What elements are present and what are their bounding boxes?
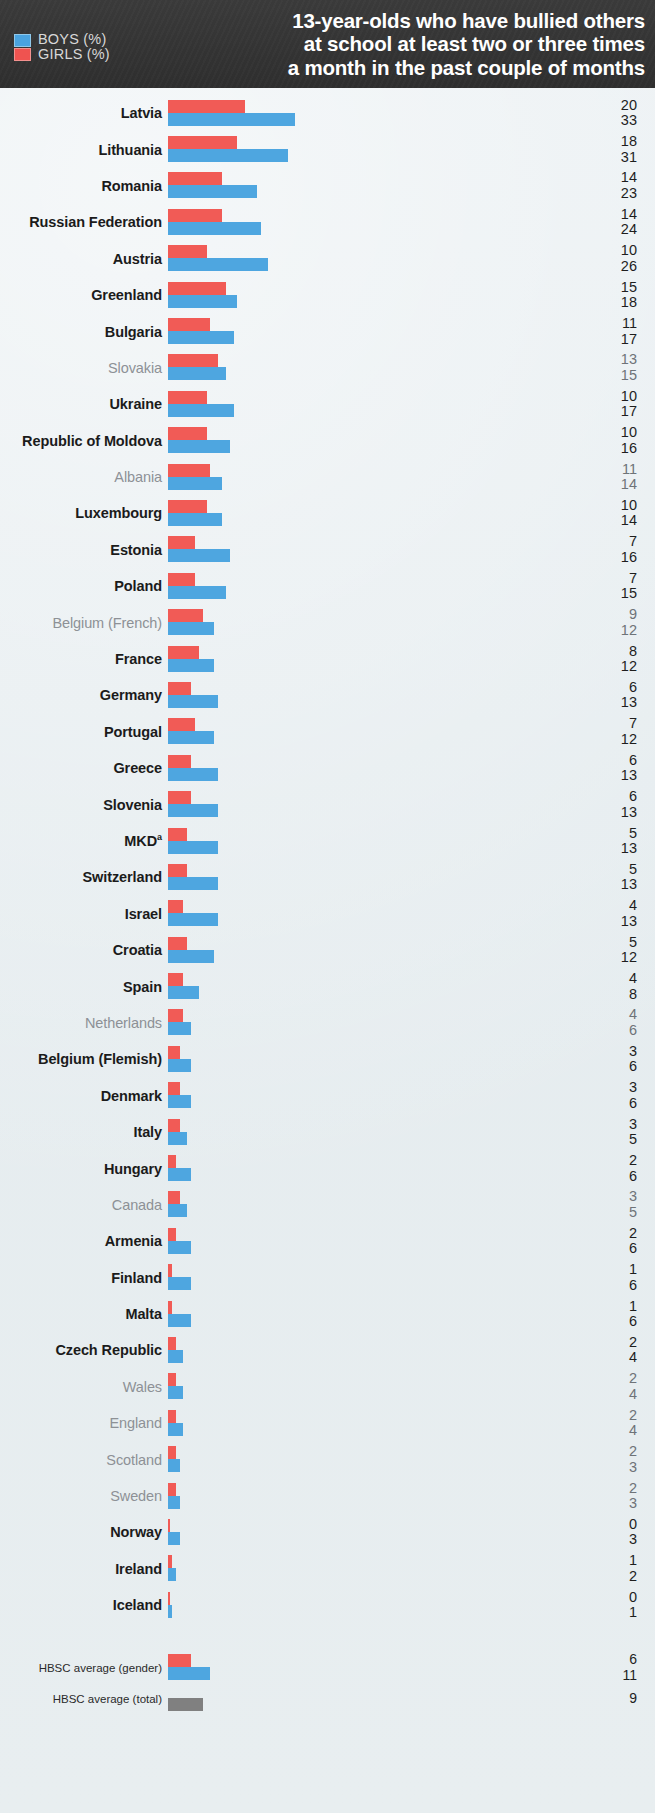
bar-boys xyxy=(168,659,214,672)
value-girls: 5 xyxy=(585,935,637,951)
table-row: Estonia716 xyxy=(0,532,655,568)
value-girls: 4 xyxy=(585,971,637,987)
table-row: Republic of Moldova1016 xyxy=(0,423,655,459)
value-girls: 10 xyxy=(585,425,637,441)
value-boys: 6 xyxy=(585,1059,637,1075)
bar-girls xyxy=(168,573,195,586)
row-label: Hungary xyxy=(0,1161,168,1177)
bar-boys xyxy=(168,367,226,380)
value-girls: 20 xyxy=(585,98,637,114)
bar-group xyxy=(168,828,655,855)
bar-group xyxy=(168,1228,655,1255)
table-row: Croatia512 xyxy=(0,932,655,968)
table-row: Germany613 xyxy=(0,677,655,713)
row-label: Albania xyxy=(0,469,168,485)
row-label: Israel xyxy=(0,906,168,922)
value-girls: 11 xyxy=(585,462,637,478)
row-label: HBSC average (gender) xyxy=(0,1660,168,1676)
row-label: Sweden xyxy=(0,1488,168,1504)
row-values: 611 xyxy=(585,1649,655,1685)
table-row: Norway03 xyxy=(0,1514,655,1550)
chart-header: BOYS (%) GIRLS (%) 13-year-olds who have… xyxy=(0,0,655,88)
row-values: 12 xyxy=(585,1551,655,1587)
value-boys: 5 xyxy=(585,1205,637,1221)
table-row: Belgium (Flemish)36 xyxy=(0,1041,655,1077)
bar-boys xyxy=(168,768,218,781)
bar-girls xyxy=(168,209,222,222)
bar-group xyxy=(168,245,655,272)
legend-swatch-boys xyxy=(14,34,31,47)
bar-girls xyxy=(168,100,245,113)
table-row: Latvia2033 xyxy=(0,95,655,131)
table-row: Spain48 xyxy=(0,968,655,1004)
value-boys: 6 xyxy=(585,1023,637,1039)
value-girls: 2 xyxy=(585,1444,637,1460)
value-girls: 10 xyxy=(585,498,637,514)
row-label: Czech Republic xyxy=(0,1342,168,1358)
row-values: 715 xyxy=(585,568,655,604)
table-row: Scotland23 xyxy=(0,1441,655,1477)
table-row: Luxembourg1014 xyxy=(0,495,655,531)
row-label: MKDa xyxy=(0,833,168,849)
bar-girls xyxy=(168,973,183,986)
row-label: Greenland xyxy=(0,287,168,303)
bar-group xyxy=(168,1692,655,1706)
bar-group xyxy=(168,1592,655,1619)
row-values: 1518 xyxy=(585,277,655,313)
value-boys: 24 xyxy=(585,222,637,238)
value-girls: 10 xyxy=(585,389,637,405)
bar-girls xyxy=(168,1301,172,1314)
bar-group xyxy=(168,1446,655,1473)
row-values: 613 xyxy=(585,786,655,822)
row-values: 1014 xyxy=(585,495,655,531)
row-label: Scotland xyxy=(0,1452,168,1468)
value-boys: 17 xyxy=(585,332,637,348)
table-row: Italy35 xyxy=(0,1114,655,1150)
row-values: 413 xyxy=(585,896,655,932)
bar-group xyxy=(168,1483,655,1510)
value-boys: 23 xyxy=(585,186,637,202)
bar-group xyxy=(168,136,655,163)
value-girls: 1 xyxy=(585,1262,637,1278)
bar-boys xyxy=(168,331,234,344)
legend-label-boys: BOYS (%) xyxy=(38,32,110,47)
bar-boys xyxy=(168,986,199,999)
table-row: Netherlands46 xyxy=(0,1005,655,1041)
value-girls: 3 xyxy=(585,1189,637,1205)
bar-girls xyxy=(168,245,207,258)
row-label: Slovenia xyxy=(0,797,168,813)
row-values: 1424 xyxy=(585,204,655,240)
row-values: 613 xyxy=(585,677,655,713)
bar-boys xyxy=(168,804,218,817)
table-row: Switzerland513 xyxy=(0,859,655,895)
average-row: HBSC average (total)9 xyxy=(0,1686,655,1712)
value-girls: 3 xyxy=(585,1044,637,1060)
table-row: Malta16 xyxy=(0,1296,655,1332)
value-boys: 13 xyxy=(585,914,637,930)
bar-group xyxy=(168,282,655,309)
row-label: Bulgaria xyxy=(0,324,168,340)
table-row: Russian Federation1424 xyxy=(0,204,655,240)
value-girls: 1 xyxy=(585,1553,637,1569)
value-boys: 33 xyxy=(585,113,637,129)
bar-group xyxy=(168,391,655,418)
table-row: France812 xyxy=(0,641,655,677)
bar-group xyxy=(168,1555,655,1582)
value-boys: 4 xyxy=(585,1423,637,1439)
value-boys: 3 xyxy=(585,1532,637,1548)
bar-group xyxy=(168,937,655,964)
bar-girls xyxy=(168,1519,170,1532)
title-line-3: a month in the past couple of months xyxy=(288,56,645,80)
row-label: Spain xyxy=(0,979,168,995)
value-girls: 14 xyxy=(585,207,637,223)
row-label: England xyxy=(0,1415,168,1431)
row-label: Netherlands xyxy=(0,1015,168,1031)
bar-boys xyxy=(168,1204,187,1217)
row-values: 24 xyxy=(585,1405,655,1441)
row-label: Malta xyxy=(0,1306,168,1322)
table-row: Slovakia1315 xyxy=(0,350,655,386)
bar-girls xyxy=(168,1446,176,1459)
bar-group xyxy=(168,900,655,927)
row-values: 48 xyxy=(585,968,655,1004)
bar-boys xyxy=(168,913,218,926)
